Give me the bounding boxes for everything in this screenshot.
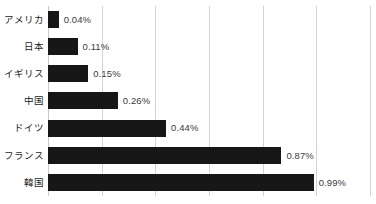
bar-row: 0.99%: [48, 169, 370, 196]
bar-value-label: 0.87%: [286, 151, 313, 161]
bar: [48, 174, 314, 191]
bar: [48, 120, 166, 137]
category-label: フランス: [4, 142, 44, 169]
bar: [48, 11, 59, 28]
bar-rows: 0.04%0.11%0.15%0.26%0.44%0.87%0.99%: [48, 6, 370, 196]
category-label: 中国: [24, 87, 44, 114]
bar: [48, 147, 281, 164]
gridline-1-2: [370, 6, 371, 196]
bar-chart: アメリカ日本イギリス中国ドイツフランス韓国 0.04%0.11%0.15%0.2…: [0, 0, 376, 204]
plot-area: 0.04%0.11%0.15%0.26%0.44%0.87%0.99%: [48, 6, 370, 196]
category-label: 韓国: [24, 169, 44, 196]
bar-row: 0.44%: [48, 115, 370, 142]
bar: [48, 92, 118, 109]
category-axis-labels: アメリカ日本イギリス中国ドイツフランス韓国: [0, 6, 44, 196]
bar-row: 0.04%: [48, 6, 370, 33]
category-label: アメリカ: [4, 6, 44, 33]
bar: [48, 38, 78, 55]
bar: [48, 65, 88, 82]
bar-row: 0.26%: [48, 87, 370, 114]
category-label: イギリス: [4, 60, 44, 87]
bar-value-label: 0.11%: [83, 42, 110, 52]
category-label: ドイツ: [14, 115, 44, 142]
bar-value-label: 0.26%: [123, 96, 150, 106]
bar-value-label: 0.44%: [171, 123, 198, 133]
category-label: 日本: [24, 33, 44, 60]
bar-value-label: 0.04%: [64, 15, 91, 25]
bar-row: 0.15%: [48, 60, 370, 87]
bar-row: 0.87%: [48, 142, 370, 169]
bar-value-label: 0.15%: [93, 69, 120, 79]
bar-row: 0.11%: [48, 33, 370, 60]
bar-value-label: 0.99%: [319, 178, 346, 188]
